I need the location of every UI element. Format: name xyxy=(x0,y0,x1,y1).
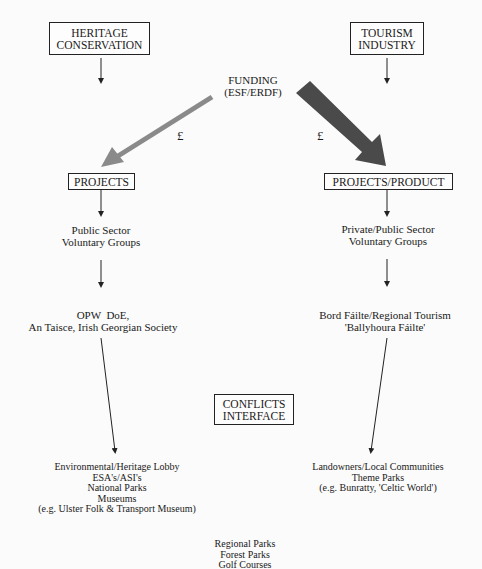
pound-sign-right: £ xyxy=(317,128,324,144)
shared-outcomes: Regional Parks Forest Parks Golf Courses xyxy=(215,539,276,569)
actor-line: Private/Public Sector xyxy=(341,224,434,236)
funding-label: FUNDING (ESF/ERDF) xyxy=(224,75,281,98)
box-line: INTERFACE xyxy=(215,410,293,422)
pound-sign-left: £ xyxy=(177,128,184,144)
right-outcomes: Landowners/Local Communities Theme Parks… xyxy=(312,462,443,494)
funding-arrow-right xyxy=(296,81,386,166)
actor-line: Voluntary Groups xyxy=(62,237,140,249)
left-outcomes: Environmental/Heritage Lobby ESA's/ASI's… xyxy=(38,462,196,515)
outcome-line: Golf Courses xyxy=(215,560,276,569)
outcome-line: Environmental/Heritage Lobby xyxy=(38,462,196,473)
outcome-line: Landowners/Local Communities xyxy=(312,462,443,473)
box-line: INDUSTRY xyxy=(351,39,423,51)
box-line: HERITAGE xyxy=(50,27,149,39)
tourism-industry-box: TOURISM INDUSTRY xyxy=(350,22,424,55)
box-line: TOURISM xyxy=(351,27,423,39)
right-agencies: Bord Fáilte/Regional Tourism 'Ballyhoura… xyxy=(319,310,451,333)
arrow-agencies-to-outcomes-right xyxy=(371,338,387,451)
left-actors: Public Sector Voluntary Groups xyxy=(62,225,140,248)
actor-line: Voluntary Groups xyxy=(341,236,434,248)
heritage-conservation-box: HERITAGE CONSERVATION xyxy=(49,22,150,55)
funding-title: FUNDING xyxy=(224,75,281,87)
agency-line: An Taisce, Irish Georgian Society xyxy=(29,322,178,334)
right-actors: Private/Public Sector Voluntary Groups xyxy=(341,224,434,247)
projects-product-box: PROJECTS/PRODUCT xyxy=(324,173,453,190)
outcome-line: (e.g. Ulster Folk & Transport Museum) xyxy=(38,504,196,515)
box-line: CONSERVATION xyxy=(50,39,149,51)
box-line: CONFLICTS xyxy=(215,398,293,410)
funding-arrow-left xyxy=(101,97,212,167)
conflicts-interface-box: CONFLICTS INTERFACE xyxy=(214,394,294,425)
outcome-line: National Parks xyxy=(38,483,196,494)
agency-line: OPW DoE, xyxy=(29,310,178,322)
actor-line: Public Sector xyxy=(62,225,140,237)
outcome-line: (e.g. Bunratty, 'Celtic World') xyxy=(312,483,443,494)
projects-box: PROJECTS xyxy=(68,173,135,190)
outcome-line: Regional Parks xyxy=(215,539,276,550)
agency-line: 'Ballyhoura Fáilte' xyxy=(319,322,451,334)
funding-source: (ESF/ERDF) xyxy=(224,87,281,99)
agency-line: Bord Fáilte/Regional Tourism xyxy=(319,310,451,322)
left-agencies: OPW DoE, An Taisce, Irish Georgian Socie… xyxy=(29,310,178,333)
arrow-agencies-to-outcomes-left xyxy=(101,338,115,451)
